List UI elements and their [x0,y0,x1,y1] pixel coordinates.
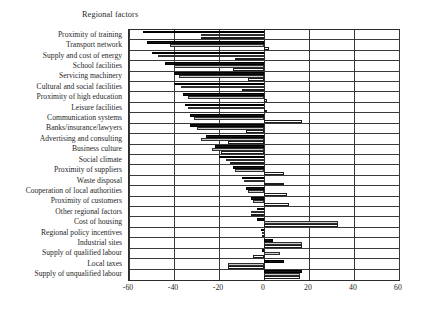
table-row [129,82,399,92]
bar-2 [201,37,264,40]
category-label: Regional policy incentives [41,228,122,237]
x-tick-label: 60 [394,283,402,292]
bar-2 [264,224,338,227]
category-label: School facilities [73,61,122,70]
bar-1 [264,252,280,255]
category-label: Cost of housing [74,217,122,226]
table-row [129,186,399,196]
table-row [129,113,399,123]
x-tick-label: -60 [123,283,133,292]
category-label: Banks/insurance/lawyers [46,123,122,132]
bar-0 [257,218,264,221]
category-label: Social climate [79,155,122,164]
bar-2 [221,151,264,154]
bar-2 [242,89,265,92]
table-row [129,30,399,40]
bar-2 [262,235,264,238]
category-label: Proximity of customers [51,196,122,205]
category-label: Proximity of suppliers [54,165,122,174]
bar-2 [264,276,300,279]
table-row [129,197,399,207]
x-tick-label: 20 [304,283,312,292]
bar-2 [228,266,264,269]
bar-1 [235,169,264,172]
bar-2 [264,172,284,175]
category-label: Industrial sites [77,238,122,247]
table-row [129,259,399,269]
bar-0 [264,260,284,263]
bar-2 [264,99,267,102]
category-label: Business culture [72,144,122,153]
category-label: Transport network [66,40,122,49]
bar-2 [264,110,267,113]
bar-2 [264,193,287,196]
bar-1 [188,107,265,110]
table-row [129,145,399,155]
bar-2 [264,47,269,50]
bar-1 [170,44,265,47]
table-row [129,103,399,113]
category-label: Advertising and consulting [40,134,122,143]
category-label: Servicing machinery [59,71,122,80]
bar-2 [251,214,265,217]
bar-2 [246,130,264,133]
table-row [129,61,399,71]
bar-1 [253,200,264,203]
category-label: Local taxes [87,259,122,268]
x-tick-label: -40 [168,283,178,292]
x-tick-label: 40 [349,283,357,292]
table-row [129,124,399,134]
bar-2 [248,78,264,81]
bar-2 [228,141,264,144]
table-row [129,238,399,248]
category-label: Cooperation of local authorities [26,186,122,195]
bar-2 [230,162,264,165]
bar-2 [264,245,302,248]
category-label: Communication systems [47,113,122,122]
value-axis-labels: -60-40-200204060 [128,283,400,301]
regional-factors-chart: Regional factors Proximity of trainingTr… [0,0,425,313]
table-row [129,270,399,280]
bar-1 [248,190,264,193]
bar-2 [264,183,284,186]
category-label: Proximity of training [58,30,122,39]
x-tick-label: -20 [213,283,223,292]
category-label: Other regional factors [55,207,122,216]
table-row [129,93,399,103]
category-label: Supply of unqualified labour [34,269,122,278]
gridline-60 [399,30,400,280]
table-row [129,228,399,238]
table-row [129,165,399,175]
bar-2 [264,203,289,206]
table-row [129,249,399,259]
page-title: Regional factors [82,10,138,19]
bar-1 [194,117,264,120]
bar-2 [264,120,302,123]
bar-2 [233,68,265,71]
category-label: Supply of qualified labour [42,248,122,257]
category-label: Proximity of high education [37,92,122,101]
table-row [129,218,399,228]
table-row [129,207,399,217]
table-row [129,155,399,165]
table-row [129,72,399,82]
table-row [129,51,399,61]
category-axis-labels: Proximity of trainingTransport networkSu… [0,29,125,281]
category-label: Waste disposal [77,176,122,185]
bar-1 [244,180,264,183]
bar-2 [253,255,264,258]
bar-rows [129,30,399,280]
table-row [129,134,399,144]
category-label: Leisure facilities [71,103,122,112]
table-row [129,40,399,50]
category-label: Cultural and social facilities [37,82,122,91]
x-tick-label: 0 [261,283,265,292]
plot-area [128,29,400,281]
bar-1 [188,96,265,99]
bar-2 [235,58,264,61]
table-row [129,176,399,186]
category-label: Supply and cost of energy [43,51,122,60]
